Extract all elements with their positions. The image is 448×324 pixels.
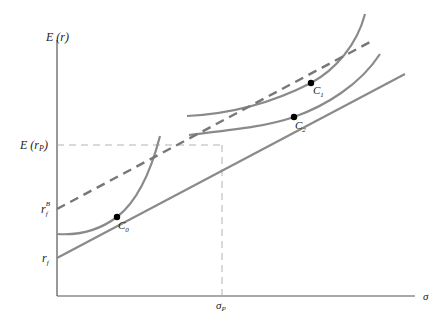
label-c1: C1: [313, 84, 324, 99]
label-sigmap: σP: [216, 299, 226, 313]
portfolio-diagram: E (r) σ E (rP) rfB rf σP C0 C1 C2: [0, 0, 448, 324]
lending-line: [57, 74, 405, 258]
label-rf: rf: [42, 251, 50, 267]
borrowing-line: [57, 41, 372, 209]
y-axis-label: E (r): [45, 30, 69, 44]
indifference-curve-1: [187, 14, 365, 116]
indifference-curve-0: [57, 136, 160, 234]
label-rfb: rfB: [41, 200, 51, 218]
label-erp: E (rP): [19, 138, 48, 153]
x-axis-label: σ: [423, 290, 429, 302]
